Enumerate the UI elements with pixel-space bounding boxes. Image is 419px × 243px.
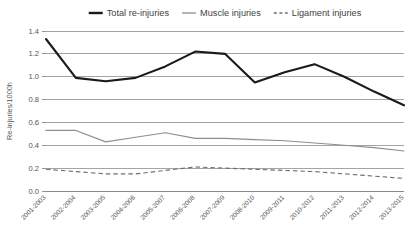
series-line-ligament-injuries xyxy=(46,167,404,178)
y-axis-tick-label: 1.4 xyxy=(28,27,39,36)
y-axis-tick-label: 0.0 xyxy=(28,187,39,196)
legend-item-muscle-injuries: Muscle injuries xyxy=(182,8,261,18)
y-axis-title: Re-injuries/1000h xyxy=(5,82,14,140)
x-axis-tick-label: 2010-2012 xyxy=(288,194,315,221)
x-axis-tick-label: 2001-2003 xyxy=(19,194,46,221)
legend-label-text: Muscle injuries xyxy=(200,8,261,18)
re-injuries-line-chart: 0.00.20.40.60.81.01.21.4 2001-20032002-2… xyxy=(0,0,419,243)
x-axis-tick-label: 2004-2006 xyxy=(109,194,136,221)
y-axis-ticks-group xyxy=(42,31,46,191)
y-axis-title-group: Re-injuries/1000h xyxy=(5,82,14,140)
legend-group: Total re-injuriesMuscle injuriesLigament… xyxy=(89,8,362,18)
x-axis-tick-label: 2008-2010 xyxy=(228,194,255,221)
x-axis-tick-label: 2009-2011 xyxy=(258,194,285,221)
x-axis-tick-label: 2005-2007 xyxy=(139,194,166,221)
y-axis-tick-label: 1.2 xyxy=(28,49,39,58)
data-series-group xyxy=(46,39,404,178)
y-axis-tick-label: 1.0 xyxy=(28,72,39,81)
y-axis-tick-label: 0.2 xyxy=(28,164,39,173)
series-line-total-re-injuries xyxy=(46,39,404,105)
x-axis-tick-label: 2002-2004 xyxy=(49,194,76,221)
y-axis-tick-label: 0.8 xyxy=(28,95,39,104)
y-axis-tick-labels-group: 0.00.20.40.60.81.01.21.4 xyxy=(28,27,39,196)
legend-label-text: Ligament injuries xyxy=(292,8,362,18)
x-axis-tick-label: 2007-2009 xyxy=(198,194,225,221)
x-axis-tick-labels-group: 2001-20032002-20042003-20052004-20062005… xyxy=(19,194,404,221)
legend-label-text: Total re-injuries xyxy=(107,8,170,18)
chart-canvas: 0.00.20.40.60.81.01.21.4 2001-20032002-2… xyxy=(0,0,419,243)
x-axis-tick-label: 2003-2005 xyxy=(79,194,106,221)
y-axis-tick-label: 0.6 xyxy=(28,118,39,127)
legend-item-total-re-injuries: Total re-injuries xyxy=(89,8,170,18)
x-axis-tick-label: 2006-2008 xyxy=(169,194,196,221)
legend-item-ligament-injuries: Ligament injuries xyxy=(274,8,362,18)
x-axis-tick-label: 2012-2014 xyxy=(348,194,375,221)
x-axis-tick-label: 2013-2015 xyxy=(377,194,404,221)
series-line-muscle-injuries xyxy=(46,130,404,151)
x-axis-tick-label: 2011-2013 xyxy=(318,194,345,221)
y-axis-tick-label: 0.4 xyxy=(28,141,39,150)
